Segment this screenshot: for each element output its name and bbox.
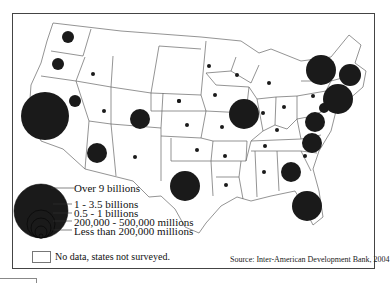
no-data-swatch xyxy=(32,251,51,263)
symbol-tennessee xyxy=(263,144,267,148)
symbol-massachusetts xyxy=(339,64,361,86)
symbol-oregon xyxy=(52,58,64,70)
page-edge xyxy=(0,278,37,283)
symbol-virginia xyxy=(305,112,325,132)
symbol-georgia xyxy=(281,162,301,182)
symbol-south-carolina xyxy=(303,154,307,158)
symbol-new-mexico xyxy=(133,155,137,159)
symbol-north-carolina xyxy=(302,133,322,153)
legend-label-less-200k: Less than 200,000 millions xyxy=(74,226,193,237)
symbol-ohio xyxy=(282,105,286,109)
symbol-michigan xyxy=(267,81,271,85)
symbol-kansas xyxy=(185,123,189,127)
symbol-oklahoma xyxy=(195,148,199,152)
symbol-new-jersey xyxy=(323,84,353,114)
symbol-nevada xyxy=(69,95,81,107)
symbol-nebraska xyxy=(177,99,181,103)
symbol-louisiana xyxy=(224,183,228,187)
source-note: Source: Inter-American Development Bank,… xyxy=(230,255,390,264)
no-data-label: No data, states not surveyed. xyxy=(55,251,170,262)
symbol-wisconsin xyxy=(235,73,239,77)
symbol-iowa xyxy=(213,93,217,97)
symbol-new-york xyxy=(306,55,336,85)
legend-label-over-9: Over 9 billions xyxy=(74,183,140,194)
symbol-colorado xyxy=(130,109,150,129)
symbol-minnesota xyxy=(207,64,211,68)
us-map xyxy=(13,14,376,270)
symbol-missouri xyxy=(220,125,224,129)
symbol-california xyxy=(21,92,69,140)
symbol-illinois xyxy=(229,99,259,129)
symbol-kentucky xyxy=(275,128,279,132)
legend-circle xyxy=(39,234,43,238)
symbol-arkansas xyxy=(223,154,227,158)
symbol-texas xyxy=(170,171,200,201)
symbol-arizona xyxy=(87,143,107,163)
symbol-idaho xyxy=(91,72,95,76)
map-frame: Over 9 billions 1 - 3.5 billions 0.5 - 1… xyxy=(12,13,375,269)
symbol-florida xyxy=(292,191,322,221)
symbol-utah xyxy=(102,109,106,113)
symbol-indiana xyxy=(261,111,265,115)
symbol-washington xyxy=(62,31,74,43)
symbol-pennsylvania xyxy=(311,94,315,98)
symbol-alabama xyxy=(262,170,266,174)
